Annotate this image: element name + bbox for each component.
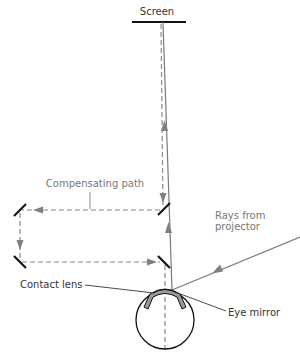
dashed-left-arrow [33,207,43,214]
diagram-canvas: Screen Compensating path Rays from proje… [0,0,300,352]
projector-label-line2: projector [215,221,261,232]
compensating-path-label: Compensating path [46,178,144,189]
projector-ray-arrow [212,265,223,274]
contact-lens-label: Contact lens [20,279,83,290]
dashed-right-arrow [147,259,157,266]
ray-up-arrow-lower [165,222,172,233]
dashed-down-arrow-left [17,240,24,250]
contact-lens-leader [85,285,154,293]
projector-label-line1: Rays from [215,210,265,221]
reflected-ray [163,22,172,290]
dashed-path-screen-to-mirror [161,24,163,207]
projector-ray [172,237,300,290]
screen-label: Screen [140,6,174,17]
eye-mirror-label: Eye mirror [228,307,281,318]
dashed-down-arrow [160,193,167,203]
mirror-upper-right [158,203,170,215]
